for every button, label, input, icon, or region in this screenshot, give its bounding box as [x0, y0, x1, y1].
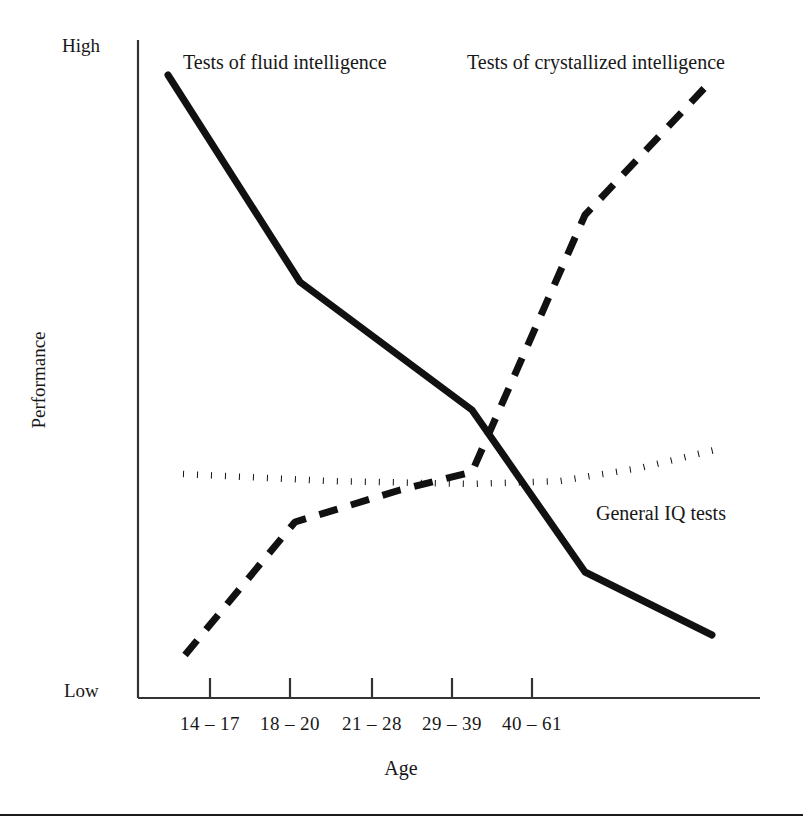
y-axis-label-high: High	[62, 36, 100, 55]
x-axis-tick-label-3: 29 – 39	[422, 714, 482, 733]
x-axis-tick-label-4: 40 – 61	[502, 714, 562, 733]
page-divider-rule	[0, 814, 803, 816]
chart-plot-area	[0, 0, 803, 834]
x-axis-title: Age	[384, 758, 417, 778]
series-line-fluid-intelligence	[168, 75, 712, 635]
series-label-crystallized-intelligence: Tests of crystallized intelligence	[467, 52, 725, 72]
x-axis-tick-label-1: 18 – 20	[260, 714, 320, 733]
chart-figure: High Low Performance Age 14 – 17 18 – 20…	[0, 0, 803, 834]
series-line-crystallized-intelligence	[185, 80, 712, 655]
y-axis-title: Performance	[29, 331, 48, 428]
y-axis-label-low: Low	[64, 681, 99, 700]
x-axis-ticks	[210, 678, 532, 698]
series-label-fluid-intelligence: Tests of fluid intelligence	[183, 52, 387, 72]
series-label-general-iq: General IQ tests	[596, 503, 726, 523]
x-axis-tick-label-2: 21 – 28	[342, 714, 402, 733]
x-axis-tick-label-0: 14 – 17	[180, 714, 240, 733]
